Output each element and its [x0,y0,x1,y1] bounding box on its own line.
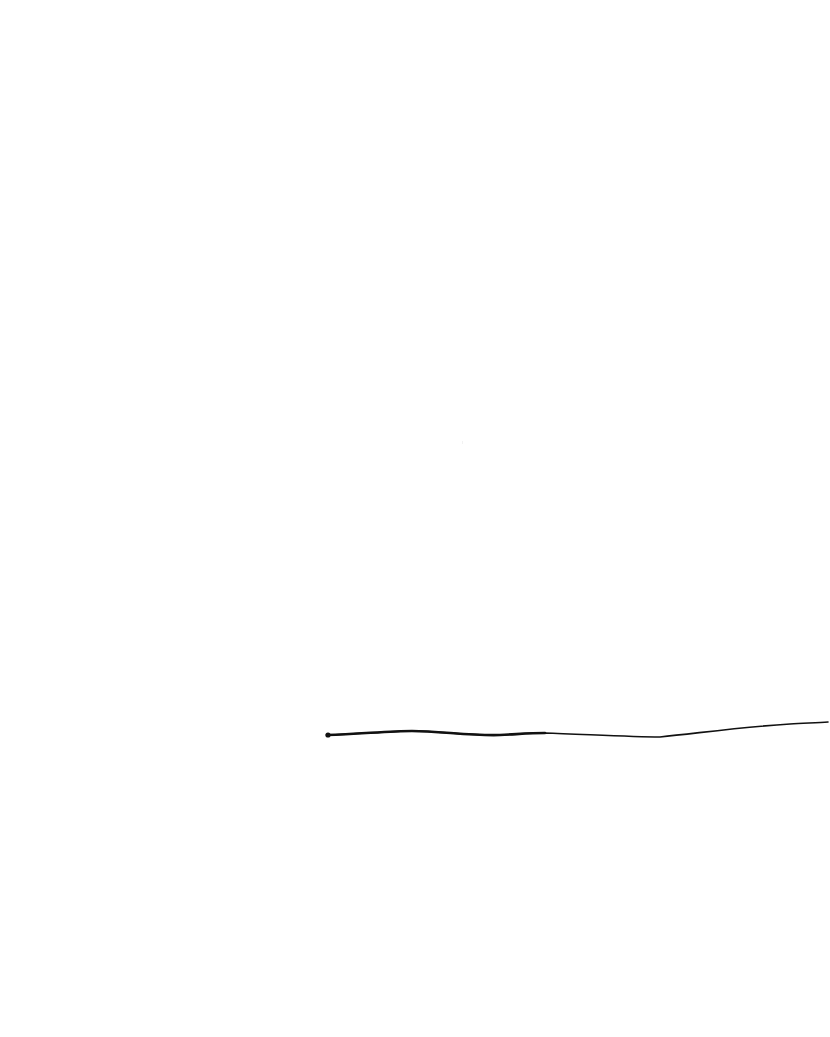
signature-stroke-thick-section [327,731,545,735]
faint-speck [462,441,463,444]
blank-page [0,0,830,1037]
signature-stroke [327,722,828,737]
stroke-start-dot [325,732,330,737]
signature-line [0,0,830,1037]
